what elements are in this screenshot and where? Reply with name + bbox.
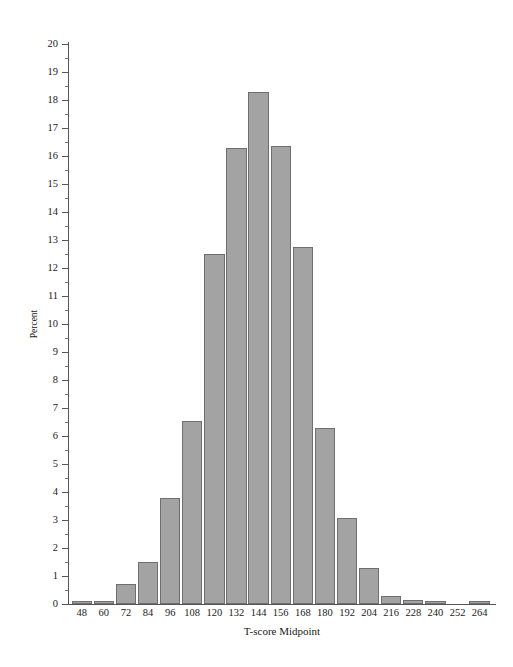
histogram-bar [403,600,423,604]
histogram-bar [204,254,224,604]
y-tick-label: 7 [53,403,58,414]
x-tick-label: 252 [450,607,466,618]
x-axis-title: T-score Midpoint [68,625,496,637]
y-tick-label: 3 [53,515,58,526]
y-tick-label: 6 [53,431,58,442]
histogram-bar [226,148,246,604]
y-axis-title: Percent [29,310,39,339]
y-tick-mark [62,604,68,605]
histogram-bar [138,562,158,604]
histogram-bar [271,146,291,604]
y-tick-label: 8 [53,375,58,386]
x-tick-label: 204 [361,607,377,618]
y-tick-label: 12 [48,263,59,274]
x-axis-line [68,604,496,605]
x-tick-label: 156 [273,607,289,618]
y-tick-label: 2 [53,543,58,554]
y-tick-label: 4 [53,487,58,498]
y-tick-label: 13 [48,235,59,246]
y-tick-label: 17 [48,123,59,134]
x-tick-label: 192 [339,607,355,618]
y-tick-label: 16 [48,151,59,162]
x-tick-label: 240 [428,607,444,618]
x-tick-label: 60 [99,607,110,618]
histogram-bar [359,568,379,604]
y-tick-label: 0 [53,599,58,610]
histogram-bar [248,92,268,604]
y-tick-label: 15 [48,179,59,190]
x-tick-label: 180 [317,607,333,618]
x-tick-label: 48 [76,607,87,618]
y-tick-label: 10 [48,319,59,330]
x-tick-label: 168 [295,607,311,618]
x-tick-label: 228 [405,607,421,618]
histogram-bar [116,584,136,604]
x-tick-label: 72 [121,607,132,618]
histogram-bar [425,601,445,604]
plot-area [68,44,498,604]
histogram-chart: Percent T-score Midpoint 012345678910111… [0,0,513,667]
histogram-bar [293,247,313,604]
y-tick-label: 9 [53,347,58,358]
histogram-bar [337,518,357,604]
x-tick-label: 132 [229,607,245,618]
y-tick-label: 11 [48,291,58,302]
x-tick-label: 120 [206,607,222,618]
histogram-bar [182,421,202,604]
y-tick-label: 1 [53,571,58,582]
x-tick-label: 108 [184,607,200,618]
histogram-bar [94,601,114,604]
x-tick-label: 96 [165,607,176,618]
histogram-bar [469,601,489,604]
y-tick-label: 19 [48,67,59,78]
histogram-bar [160,498,180,604]
y-tick-label: 20 [48,39,59,50]
y-tick-label: 18 [48,95,59,106]
histogram-bar [72,601,92,604]
y-tick-label: 5 [53,459,58,470]
y-tick-label: 14 [48,207,59,218]
x-tick-label: 216 [383,607,399,618]
x-tick-label: 144 [251,607,267,618]
histogram-bar [381,596,401,604]
x-tick-label: 264 [472,607,488,618]
x-tick-label: 84 [143,607,154,618]
histogram-bar [315,428,335,604]
